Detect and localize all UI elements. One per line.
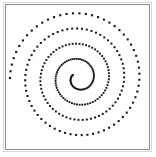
scatter-point: [40, 88, 42, 90]
scatter-point: [28, 59, 30, 61]
scatter-point: [25, 90, 27, 92]
scatter-point: [108, 78, 110, 80]
scatter-point: [62, 115, 64, 117]
scatter-point: [59, 93, 61, 95]
scatter-point: [122, 116, 124, 118]
scatter-point: [75, 43, 77, 45]
scatter-point: [84, 104, 86, 106]
scatter-point: [73, 118, 75, 120]
scatter-point: [66, 28, 68, 30]
scatter-point: [136, 91, 138, 93]
scatter-point: [44, 122, 46, 124]
scatter-point: [76, 27, 78, 29]
scatter-point: [55, 73, 57, 75]
scatter-point: [107, 84, 109, 86]
scatter-point: [120, 58, 122, 60]
scatter-point: [103, 58, 105, 60]
scatter-point: [105, 110, 107, 112]
scatter-point: [37, 114, 39, 116]
scatter-point: [108, 75, 110, 77]
scatter-point: [114, 46, 116, 48]
scatter-point: [79, 58, 81, 60]
scatter-point: [97, 16, 99, 18]
scatter-point: [107, 81, 109, 83]
scatter-point: [81, 134, 83, 136]
scatter-point: [79, 43, 81, 45]
scatter-point: [138, 67, 140, 69]
scatter-point: [121, 90, 123, 92]
scatter-point: [55, 49, 57, 51]
scatter-point: [91, 14, 93, 16]
scatter-point: [94, 100, 96, 102]
scatter-point: [69, 118, 71, 120]
scatter-point: [62, 97, 64, 99]
scatter-point: [55, 78, 57, 80]
scatter-point: [122, 85, 124, 87]
scatter-point: [64, 61, 66, 63]
scatter-point: [83, 59, 85, 61]
scatter-point: [89, 102, 91, 104]
scatter-point: [138, 73, 140, 75]
scatter-point: [85, 44, 87, 46]
scatter-point: [77, 58, 79, 60]
scatter-point: [64, 99, 66, 101]
scatter-point: [52, 33, 54, 35]
scatter-point: [70, 59, 72, 61]
spiral-point-series: [9, 12, 141, 136]
scatter-point: [105, 60, 107, 62]
scatter-point: [55, 82, 57, 84]
scatter-point: [118, 54, 120, 56]
scatter-point: [103, 19, 105, 21]
scatter-point: [65, 44, 67, 46]
scatter-point: [82, 119, 84, 121]
scatter-point: [123, 81, 125, 83]
scatter-point: [97, 50, 99, 52]
scatter-point: [48, 56, 50, 58]
scatter-point: [93, 76, 95, 78]
scatter-point: [94, 48, 96, 50]
spiral-scatter-svg: [6, 5, 149, 149]
scatter-point: [24, 79, 26, 81]
scatter-point: [44, 39, 46, 41]
scatter-point: [69, 101, 71, 103]
scatter-point: [132, 102, 134, 104]
scatter-point: [122, 63, 124, 65]
scatter-point: [36, 46, 38, 48]
scatter-point: [99, 96, 101, 98]
scatter-point: [73, 58, 75, 60]
plot-area: [6, 5, 149, 149]
scatter-point: [133, 49, 135, 51]
scatter-point: [78, 119, 80, 121]
scatter-point: [57, 69, 59, 71]
scatter-point: [68, 43, 70, 45]
scatter-point: [134, 96, 136, 98]
scatter-point: [98, 131, 100, 133]
scatter-point: [81, 59, 83, 61]
scatter-point: [40, 73, 42, 75]
scatter-point: [49, 125, 51, 127]
spiral-scatter-figure: [0, 0, 156, 157]
scatter-point: [57, 89, 59, 91]
scatter-point: [79, 104, 81, 106]
scatter-point: [69, 133, 71, 135]
scatter-point: [75, 58, 77, 60]
scatter-point: [93, 71, 95, 73]
scatter-point: [33, 110, 35, 112]
scatter-point: [76, 104, 78, 106]
scatter-point: [99, 53, 101, 55]
scatter-point: [135, 55, 137, 57]
scatter-point: [90, 30, 92, 32]
scatter-point: [90, 118, 92, 120]
scatter-point: [85, 13, 87, 15]
scatter-point: [86, 134, 88, 136]
scatter-point: [57, 31, 59, 33]
scatter-point: [39, 80, 41, 82]
scatter-point: [75, 134, 77, 136]
scatter-point: [22, 39, 24, 41]
scatter-point: [24, 74, 26, 76]
scatter-point: [66, 60, 68, 62]
scatter-point: [55, 111, 57, 113]
scatter-point: [52, 108, 54, 110]
scatter-point: [108, 127, 110, 129]
scatter-point: [36, 25, 38, 27]
